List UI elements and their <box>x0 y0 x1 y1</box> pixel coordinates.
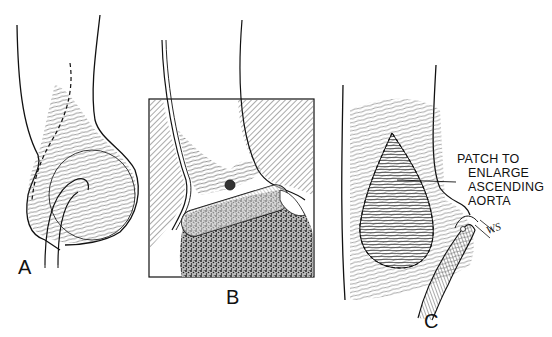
panel-label-a: A <box>18 257 31 277</box>
surgical-illustration: A B C PATCH TO ENLARGE ASCENDING AORTA W… <box>0 0 552 337</box>
panel-label-b: B <box>226 287 239 307</box>
panel-a-drawing <box>17 15 138 268</box>
callout-line-3: ASCENDING <box>457 180 544 194</box>
callout-line-4: AORTA <box>457 194 544 208</box>
panel-label-c: C <box>424 311 438 331</box>
patch-callout-label: PATCH TO ENLARGE ASCENDING AORTA <box>457 152 544 208</box>
panel-b-drawing <box>149 20 314 277</box>
callout-line-1: PATCH TO <box>457 152 544 166</box>
callout-line-2: ENLARGE <box>457 166 544 180</box>
